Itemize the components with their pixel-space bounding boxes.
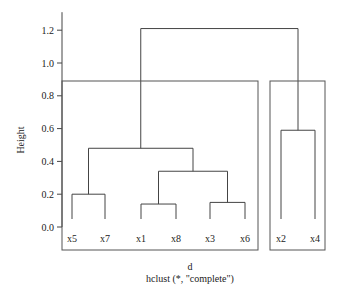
y-axis-label: Height [15, 126, 26, 153]
y-tick-label: 0.4 [42, 156, 55, 167]
y-tick-label: 0.8 [42, 90, 55, 101]
y-tick-label: 0.2 [42, 189, 55, 200]
leaf-label-x1: x1 [136, 233, 146, 244]
y-tick-label: 0.6 [42, 123, 55, 134]
leaf-label-x3: x3 [205, 233, 215, 244]
leaf-label-x5: x5 [67, 233, 77, 244]
dendrogram-tree [72, 29, 315, 219]
leaf-labels: x5x7x1x8x3x6x2x4 [67, 233, 320, 244]
leaf-label-x4: x4 [310, 233, 320, 244]
leaf-label-x7: x7 [100, 233, 110, 244]
subtitle: hclust (*, "complete") [146, 273, 234, 285]
leaf-label-x8: x8 [171, 233, 181, 244]
leaf-label-x6: x6 [240, 233, 250, 244]
leaf-label-x2: x2 [276, 233, 286, 244]
y-axis: 0.00.20.40.60.81.01.2 [42, 12, 63, 232]
y-tick-label: 1.2 [42, 25, 55, 36]
y-tick-label: 1.0 [42, 58, 55, 69]
y-tick-label: 0.0 [42, 222, 55, 233]
x-axis-label: d [188, 261, 193, 272]
dendrogram-chart: 0.00.20.40.60.81.01.2 Height x5x7x1x8x3x… [0, 0, 346, 300]
cluster-box [62, 81, 258, 250]
